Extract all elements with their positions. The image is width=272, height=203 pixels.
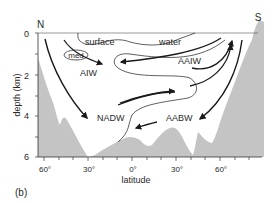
y-tick-0: 0 [24,29,29,39]
label-surface: surface [85,37,115,47]
x-tick-60s: 60° [215,165,227,174]
label-aabw: AABW [166,113,193,123]
seafloor-topography [38,20,264,157]
x-tick-60n: 60° [39,165,51,174]
x-tick-30n: 30° [83,165,95,174]
label-med: med [68,51,84,60]
x-tick-0: 0° [129,165,137,174]
y-tick-2: 2 [24,71,29,81]
y-ticks [35,33,38,157]
ocean-circulation-diagram: 0 2 4 6 depth (km) 60° 30° 0° 30° 60° la… [0,0,272,203]
label-aaiw: AAIW [178,56,202,66]
x-ticks [44,157,249,161]
y-tick-6: 6 [24,152,29,162]
y-axis-label: depth (km) [12,73,22,116]
panel-label: (b) [15,187,27,198]
south-label: S [255,12,262,23]
north-label: N [37,19,44,30]
label-aiw: AIW [80,68,98,78]
label-nadw: NADW [97,113,125,123]
aabw-arrow [136,122,157,128]
x-tick-30s: 30° [171,165,183,174]
y-tick-4: 4 [24,111,29,121]
x-axis-label: latitude [121,175,150,185]
label-water: water [158,37,181,47]
